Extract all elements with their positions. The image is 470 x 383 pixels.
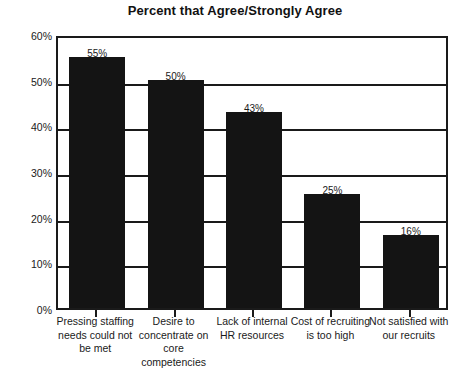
bar	[226, 112, 282, 308]
y-axis-tick-label: 60%	[6, 30, 52, 42]
chart-title: Percent that Agree/Strongly Agree	[0, 3, 470, 18]
bar-value-label: 55%	[69, 48, 125, 59]
x-axis-category-label: Pressing staffing needs could not be met	[52, 315, 138, 356]
bar-value-label: 43%	[226, 103, 282, 114]
x-axis-category-label: Lack of internal HR resources	[209, 315, 295, 342]
bar-value-label: 16%	[383, 226, 439, 237]
bar	[383, 235, 439, 308]
y-axis-tick-label: 50%	[6, 76, 52, 88]
y-axis-tick-label: 40%	[6, 121, 52, 133]
bar-value-label: 50%	[148, 71, 204, 82]
y-axis: 0%10%20%30%40%50%60%	[0, 36, 52, 310]
bar-chart-figure: Percent that Agree/Strongly Agree 0%10%2…	[0, 0, 470, 383]
bar	[148, 80, 204, 308]
plot-area: 55%50%43%25%16%	[56, 36, 448, 310]
x-axis-category-label: Cost of recruiting is too high	[287, 315, 373, 342]
y-axis-tick-label: 10%	[6, 258, 52, 270]
x-axis-category-label: Desire to concentrate on core competenci…	[130, 315, 216, 369]
x-axis-category-label: Not satisfied with our recruits	[366, 315, 452, 342]
bar	[304, 194, 360, 308]
bar-value-label: 25%	[304, 185, 360, 196]
y-axis-tick-label: 20%	[6, 213, 52, 225]
y-axis-tick-label: 30%	[6, 167, 52, 179]
bar	[69, 57, 125, 308]
y-axis-tick-label: 0%	[6, 304, 52, 316]
